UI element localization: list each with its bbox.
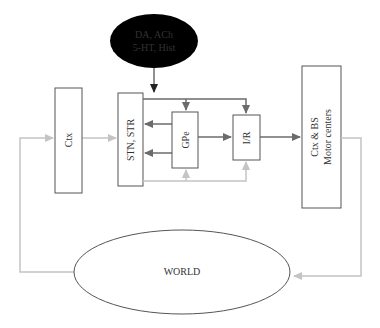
neuromodulators-line2: 5-HT, Hist	[133, 42, 176, 53]
stn-to-ir-arrow	[143, 99, 246, 113]
stn-str-box: STN, STR	[118, 93, 143, 186]
ir-label: I/R	[241, 131, 252, 144]
gpe-label: GPe	[180, 131, 191, 149]
neuromodulators-node: DA, ACh 5-HT, Hist	[110, 14, 198, 68]
stn-str-label: STN, STR	[125, 119, 136, 162]
gpe-box: GPe	[172, 112, 198, 168]
motor-label-line1: Ctx & BS	[309, 117, 320, 156]
world-label: WORLD	[164, 266, 201, 277]
ir-box: I/R	[233, 115, 260, 160]
world-node: WORLD	[74, 230, 290, 314]
motor-centers-box: Ctx & BS Motor centers	[302, 66, 341, 208]
neuromodulators-line1: DA, ACh	[135, 29, 173, 40]
ctx-label: Ctx	[63, 133, 74, 147]
motor-label-line2: Motor centers	[322, 109, 333, 165]
ctx-box: Ctx	[55, 88, 82, 193]
basal-ganglia-diagram: DA, ACh 5-HT, Hist Ctx STN, STR GPe I/R	[0, 0, 380, 328]
